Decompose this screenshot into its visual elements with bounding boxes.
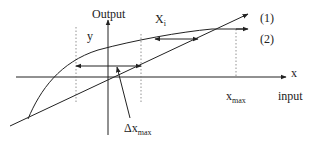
xi-label: Xi — [155, 13, 166, 28]
curve-1-line — [10, 14, 248, 126]
dxmax-pointer — [117, 67, 130, 118]
curve-1-label: (1) — [260, 12, 274, 24]
x-axis-label: x — [291, 67, 297, 79]
curve-2-curve — [28, 29, 246, 119]
dxmax-label: Δxmax — [124, 122, 152, 137]
curve-2-label: (2) — [260, 33, 274, 45]
output-label: Output — [92, 8, 125, 20]
input-label: input — [278, 90, 303, 102]
xmax-label: xmax — [226, 90, 246, 105]
y-label: y — [87, 30, 93, 42]
